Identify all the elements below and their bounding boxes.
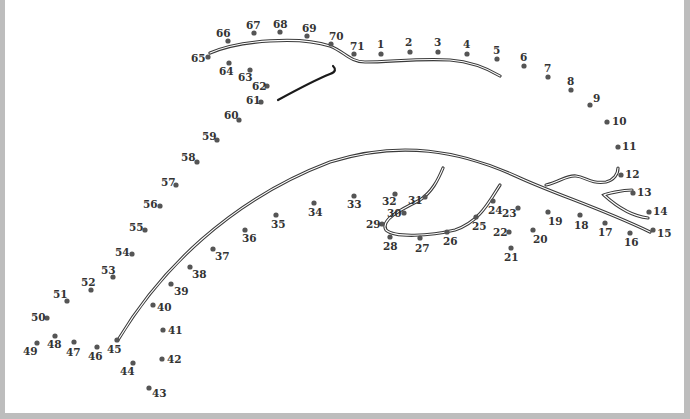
dot-marker (205, 54, 210, 59)
dot-number-label: 54 (115, 246, 130, 258)
dot-5: 5 (493, 44, 500, 62)
dot-marker (630, 190, 635, 195)
dot-14: 14 (646, 205, 667, 217)
dot-1: 1 (377, 38, 384, 57)
dot-11: 11 (615, 140, 636, 152)
dot-number-label: 28 (383, 240, 398, 252)
dot-number-label: 42 (167, 353, 182, 365)
dot-number-label: 69 (302, 22, 317, 34)
dot-59: 59 (202, 130, 220, 143)
dot-number-label: 60 (224, 109, 239, 121)
dot-21: 21 (504, 245, 519, 263)
dot-34: 34 (308, 200, 323, 218)
dot-marker (545, 74, 550, 79)
dot-number-label: 48 (47, 338, 62, 350)
dot-number-label: 6 (520, 51, 527, 63)
dot-marker (387, 234, 392, 239)
dot-63: 63 (238, 67, 253, 83)
dot-number-label: 19 (548, 215, 563, 227)
dot-40: 40 (150, 301, 171, 313)
dot-marker (444, 229, 449, 234)
dot-marker (160, 327, 165, 332)
dot-57: 57 (161, 176, 179, 188)
dot-marker (587, 102, 592, 107)
dot-marker (150, 302, 155, 307)
dot-20: 20 (530, 227, 547, 245)
dot-15: 15 (650, 227, 671, 239)
dot-marker (328, 41, 333, 46)
dot-marker (146, 385, 151, 390)
dot-number-label: 50 (31, 311, 46, 323)
dot-16: 16 (624, 230, 639, 248)
dot-35: 35 (271, 212, 286, 230)
dot-12: 12 (618, 168, 639, 180)
dot-43: 43 (146, 385, 166, 399)
numbered-dots: 1234567891011121314151617181920212223242… (23, 18, 672, 399)
dot-number-label: 17 (598, 226, 613, 238)
dot-number-label: 64 (219, 65, 234, 77)
dot-41: 41 (160, 324, 182, 336)
dot-38: 38 (187, 264, 206, 280)
dot-marker (435, 49, 440, 54)
dot-54: 54 (115, 246, 135, 258)
dot-number-label: 67 (246, 19, 261, 31)
dot-number-label: 55 (129, 221, 144, 233)
dot-number-label: 4 (463, 38, 470, 50)
dot-number-label: 22 (493, 226, 508, 238)
dot-number-label: 13 (637, 186, 652, 198)
dot-marker (627, 230, 632, 235)
dot-number-label: 41 (168, 324, 183, 336)
dot-4: 4 (463, 38, 470, 57)
dot-number-label: 53 (101, 264, 116, 276)
dot-number-label: 5 (493, 44, 500, 56)
dot-number-label: 2 (405, 36, 412, 48)
dot-marker (407, 49, 412, 54)
dot-45: 45 (107, 337, 122, 355)
dot-64: 64 (219, 60, 234, 77)
dot-number-label: 70 (329, 30, 344, 42)
dot-marker (351, 51, 356, 56)
dot-42: 42 (159, 353, 181, 365)
dot-number-label: 35 (271, 218, 286, 230)
dot-28: 28 (383, 234, 398, 252)
dot-number-label: 52 (81, 276, 96, 288)
dot-marker (311, 200, 316, 205)
dot-27: 27 (415, 235, 430, 254)
dot-51: 51 (53, 288, 70, 304)
dot-number-label: 38 (192, 268, 207, 280)
dot-56: 56 (143, 198, 163, 210)
dot-marker (277, 29, 282, 34)
dot-36: 36 (242, 227, 257, 244)
dot-29: 29 (366, 218, 385, 230)
dot-marker (304, 33, 309, 38)
dot-17: 17 (598, 220, 613, 238)
dot-33: 33 (347, 193, 362, 210)
dot-number-label: 66 (216, 27, 231, 39)
dot-number-label: 11 (622, 140, 637, 152)
dot-marker (88, 287, 93, 292)
dot-number-label: 63 (238, 71, 253, 83)
dot-marker (530, 227, 535, 232)
dot-number-label: 68 (273, 18, 288, 30)
dot-number-label: 25 (472, 220, 487, 232)
dot-70: 70 (328, 30, 343, 47)
dot-marker (650, 227, 655, 232)
dot-marker (422, 194, 427, 199)
dot-6: 6 (520, 51, 527, 69)
dot-18: 18 (574, 212, 589, 231)
dot-number-label: 71 (350, 40, 365, 52)
dot-22: 22 (493, 226, 512, 238)
dot-58: 58 (181, 151, 200, 165)
dot-number-label: 58 (181, 151, 196, 163)
dot-number-label: 10 (612, 115, 627, 127)
dot-number-label: 61 (246, 94, 261, 106)
dot-52: 52 (81, 276, 96, 293)
dot-marker (378, 51, 383, 56)
dot-67: 67 (246, 19, 261, 36)
dot-46: 46 (88, 344, 103, 362)
dot-number-label: 8 (567, 75, 574, 87)
dot-number-label: 47 (66, 346, 81, 358)
dot-marker (464, 51, 469, 56)
dot-number-label: 24 (488, 204, 503, 216)
dot-marker (490, 198, 495, 203)
